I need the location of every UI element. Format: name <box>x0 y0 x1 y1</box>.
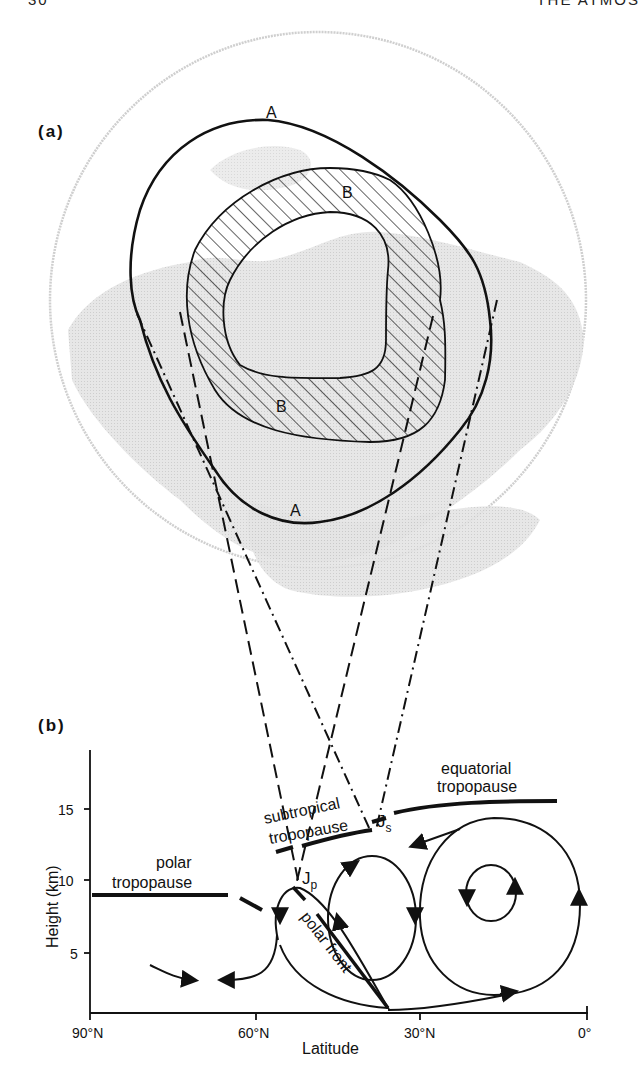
polar-front-label: polar front <box>298 908 356 976</box>
polar-tropopause-line2: tropopause <box>112 874 192 891</box>
x-tick-30n: 30°N <box>404 1025 435 1041</box>
equatorial-tropopause-line1: equatorial <box>441 760 511 777</box>
zone-b-label-top: B <box>342 184 353 201</box>
y-tick-15: 15 <box>58 802 74 818</box>
zone-a-label-bottom: A <box>290 502 301 519</box>
x-axis-title: Latitude <box>302 1040 359 1057</box>
jet-subtropical-label: Js <box>377 812 392 835</box>
equatorial-tropopause-line2: tropopause <box>437 778 517 795</box>
zone-b-label-bottom: B <box>276 398 287 415</box>
y-tick-5: 5 <box>70 946 78 962</box>
globe-map <box>50 32 586 597</box>
zone-a-label-top: A <box>266 104 277 121</box>
circulation-cells <box>150 818 580 1010</box>
x-tick-60n: 60°N <box>238 1025 269 1041</box>
x-tick-90n: 90°N <box>72 1025 103 1041</box>
y-axis-title: Height (km) <box>44 865 61 948</box>
polar-tropopause-line1: polar <box>156 854 192 871</box>
x-tick-0: 0° <box>578 1025 591 1041</box>
jet-polar-label: Jp <box>302 869 318 892</box>
